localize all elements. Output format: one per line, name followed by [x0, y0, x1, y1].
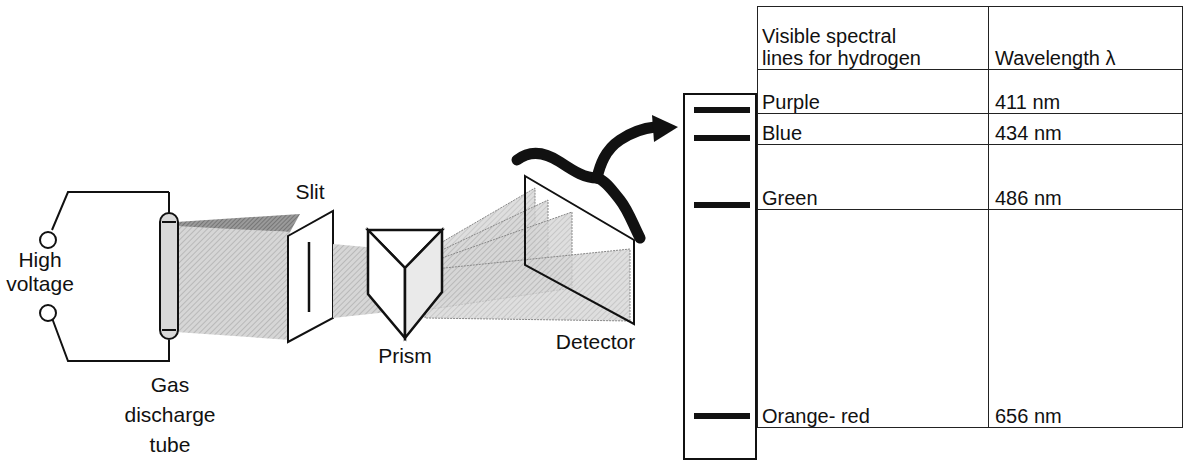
header-wavelength: Wavelength λ [989, 7, 1183, 70]
header-col1-line2: lines for hydrogen [762, 47, 984, 69]
prism-label: Prism [365, 344, 445, 368]
row-wavelength: 656 nm [989, 210, 1183, 428]
tube-label-line3: tube [120, 430, 220, 460]
table-header-row: Visible spectral lines for hydrogen Wave… [758, 7, 1183, 70]
spectral-line-orange-red [694, 413, 750, 419]
high-voltage-label-line1: High [0, 248, 80, 272]
row-wavelength: 434 nm [989, 114, 1183, 145]
prism [368, 230, 442, 338]
spectrum-strip [683, 93, 757, 460]
spectral-line-green [694, 202, 750, 208]
tube-label-line2: discharge [120, 400, 220, 430]
high-voltage-label-line2: voltage [0, 272, 80, 296]
table-row: Orange- red 656 nm [758, 210, 1183, 428]
high-voltage-terminal-bottom [40, 305, 56, 321]
table-row: Purple 411 nm [758, 70, 1183, 114]
header-spectral-lines: Visible spectral lines for hydrogen [758, 7, 989, 70]
gas-discharge-tube-label: Gas discharge tube [120, 370, 220, 460]
spectral-lines-table: Visible spectral lines for hydrogen Wave… [757, 6, 1183, 428]
row-color: Green [758, 145, 989, 210]
slit-label: Slit [285, 180, 335, 204]
row-wavelength: 411 nm [989, 70, 1183, 114]
spectral-line-purple [694, 107, 750, 113]
row-wavelength: 486 nm [989, 145, 1183, 210]
light-beam [176, 226, 290, 340]
row-color: Blue [758, 114, 989, 145]
header-col1-line1: Visible spectral [762, 25, 984, 47]
detector-label: Detector [543, 330, 648, 354]
spectral-line-blue [694, 135, 750, 141]
table-row: Green 486 nm [758, 145, 1183, 210]
arrow-head-icon [652, 115, 678, 142]
table-row: Blue 434 nm [758, 114, 1183, 145]
row-color: Purple [758, 70, 989, 114]
gas-discharge-tube [160, 213, 178, 339]
slit-plate [288, 211, 333, 342]
high-voltage-label: High voltage [0, 248, 80, 296]
dispersed-beams [425, 188, 630, 321]
high-voltage-terminal-top [40, 232, 56, 248]
row-color: Orange- red [758, 210, 989, 428]
tube-label-line1: Gas [120, 370, 220, 400]
